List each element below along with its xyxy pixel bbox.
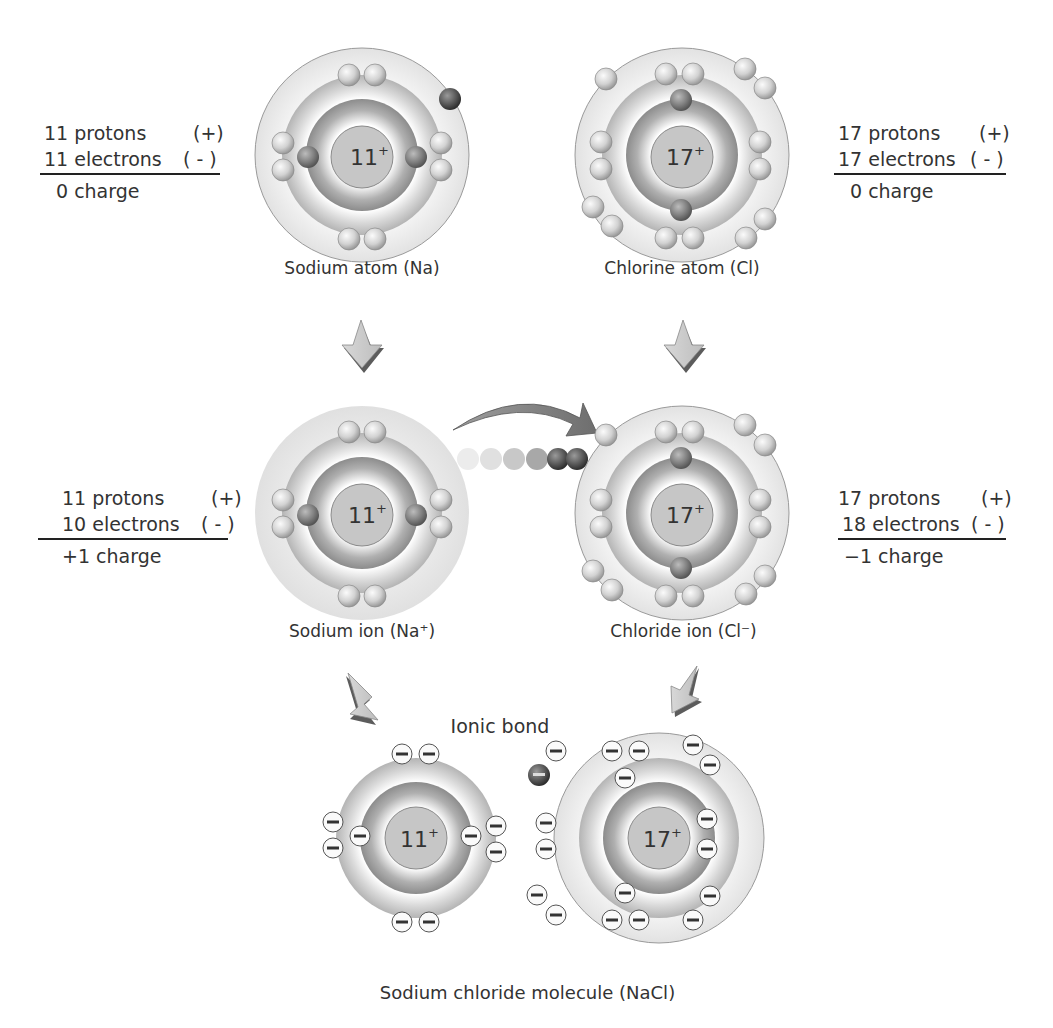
ionic-bond-label: Ionic bond — [435, 715, 565, 737]
sodium-atom-charge-calc: 11 protons(+) 11 electrons( - ) 0 charge — [40, 120, 220, 204]
charge-result: 0 charge — [40, 178, 220, 204]
arrow-chloride-ion-down — [671, 666, 702, 717]
charge-result: −1 charge — [838, 543, 1006, 569]
sodium-ion-charge-calc: 11 protons(+) 10 electrons( - ) +1 charg… — [38, 485, 228, 569]
electrons-text: 10 electrons — [62, 513, 180, 535]
protons-text: 17 protons — [838, 487, 940, 509]
molecule-title: Sodium chloride molecule (NaCl) — [340, 982, 715, 1003]
sum-line — [838, 538, 1006, 540]
sodium-ion: 11+ — [255, 406, 469, 620]
chloride-ion-in-molecule: 17+ — [554, 733, 764, 943]
protons-sign: (+) — [979, 120, 1010, 146]
sodium-atom-label: Sodium atom (Na) — [282, 258, 442, 278]
protons-text: 11 protons — [44, 122, 146, 144]
protons-sign: (+) — [193, 120, 224, 146]
chlorine-atom-label: Chlorine atom (Cl) — [592, 258, 772, 278]
electrons-sign: ( - ) — [971, 511, 1005, 537]
arrow-sodium-down — [342, 320, 384, 373]
sum-line — [40, 173, 220, 175]
charge-result: 0 charge — [834, 178, 1006, 204]
sum-line — [38, 538, 228, 540]
chlorine-atom: 17+ — [575, 48, 789, 262]
electrons-sign: ( - ) — [201, 511, 235, 537]
electrons-text: 18 electrons — [842, 513, 960, 535]
chloride-ion: 17+ — [575, 406, 789, 620]
arrow-sodium-ion-down — [346, 673, 378, 725]
valence-electron — [439, 88, 461, 110]
electrons-sign: ( - ) — [183, 146, 217, 172]
electrons-text: 17 electrons — [838, 148, 956, 170]
sodium-atom: 11+ — [255, 48, 469, 262]
electron-transfer-arrow — [453, 403, 597, 436]
sum-line — [834, 173, 1006, 175]
protons-text: 17 protons — [838, 122, 940, 144]
chloride-ion-label: Chloride ion (Cl⁻) — [596, 621, 771, 641]
electron-transfer-trail — [457, 448, 588, 470]
electrons-text: 11 electrons — [44, 148, 162, 170]
protons-sign: (+) — [981, 485, 1012, 511]
arrow-chlorine-down — [664, 320, 706, 373]
chlorine-atom-charge-calc: 17 protons(+) 17 electrons( - ) 0 charge — [834, 120, 1006, 204]
sodium-ion-label: Sodium ion (Na⁺) — [278, 621, 446, 641]
protons-text: 11 protons — [62, 487, 164, 509]
charge-result: +1 charge — [38, 543, 228, 569]
chloride-ion-charge-calc: 17 protons(+) 18 electrons( - ) −1 charg… — [838, 485, 1006, 569]
electrons-sign: ( - ) — [970, 146, 1004, 172]
protons-sign: (+) — [211, 485, 242, 511]
